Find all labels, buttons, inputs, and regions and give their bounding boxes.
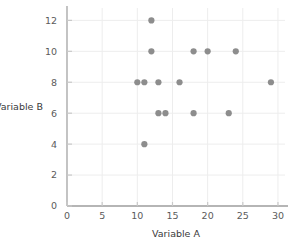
x-tick-label: 25: [237, 210, 249, 221]
x-tick-labels-group: 051015202530: [64, 210, 284, 221]
y-axis-title: Variable B: [0, 101, 43, 112]
plot-canvas: 051015202530 024681012 Variable A Variab…: [0, 0, 293, 244]
data-point: [205, 48, 211, 54]
data-point: [233, 48, 239, 54]
data-point: [141, 79, 147, 85]
y-tick-label: 10: [45, 46, 57, 57]
x-tick-label: 10: [131, 210, 143, 221]
x-tick-label: 15: [166, 210, 178, 221]
x-tick-label: 5: [99, 210, 105, 221]
y-tick-label: 12: [45, 15, 57, 26]
data-point: [162, 110, 168, 116]
y-tick-label: 4: [51, 139, 57, 150]
y-tick-label: 8: [51, 77, 57, 88]
x-tick-label: 20: [202, 210, 214, 221]
data-point: [141, 141, 147, 147]
data-point: [176, 79, 182, 85]
data-point: [148, 48, 154, 54]
data-point: [190, 48, 196, 54]
data-point: [155, 79, 161, 85]
x-tick-label: 0: [64, 210, 70, 221]
data-point: [155, 110, 161, 116]
x-axis-title: Variable A: [152, 228, 200, 239]
data-point: [190, 110, 196, 116]
x-tick-label: 30: [272, 210, 284, 221]
y-tick-labels-group: 024681012: [45, 15, 57, 212]
y-tick-label: 0: [51, 200, 57, 211]
y-tick-label: 6: [51, 108, 57, 119]
grid-lines-group: [67, 8, 285, 206]
data-point: [148, 17, 154, 23]
data-point: [226, 110, 232, 116]
y-tick-label: 2: [51, 169, 57, 180]
scatter-plot-figure: 051015202530 024681012 Variable A Variab…: [0, 0, 293, 244]
data-point: [268, 79, 274, 85]
data-point: [134, 79, 140, 85]
